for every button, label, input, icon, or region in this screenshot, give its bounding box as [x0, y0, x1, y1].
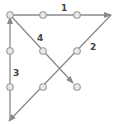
grid-dot [7, 12, 14, 19]
segment-label-1: 1 [61, 3, 67, 13]
grid-dot [40, 84, 47, 91]
segment-label-4: 4 [37, 33, 43, 43]
grid-dot [74, 48, 81, 55]
grid-dot [7, 48, 14, 55]
grid-dot [74, 12, 81, 19]
grid-dot [40, 48, 47, 55]
nine-dot-puzzle-diagram: 1234 [0, 0, 117, 124]
grid-dot [74, 84, 81, 91]
grid-dot [7, 84, 14, 91]
line-segments [9, 15, 111, 121]
segment-labels: 1234 [13, 3, 96, 78]
grid-dot [40, 12, 47, 19]
segment-label-2: 2 [90, 42, 96, 52]
segment-label-3: 3 [13, 68, 19, 78]
